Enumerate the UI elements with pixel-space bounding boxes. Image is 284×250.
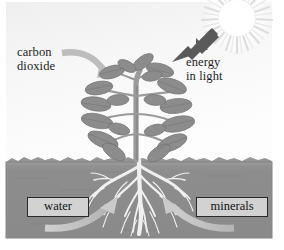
photosynthesis-diagram: carbon dioxide energy in light water min… <box>0 0 284 250</box>
label-minerals: minerals <box>196 197 268 217</box>
label-energy-in-light: energy in light <box>186 55 223 83</box>
label-carbon-dioxide: carbon dioxide <box>17 45 55 73</box>
label-water: water <box>27 197 89 217</box>
